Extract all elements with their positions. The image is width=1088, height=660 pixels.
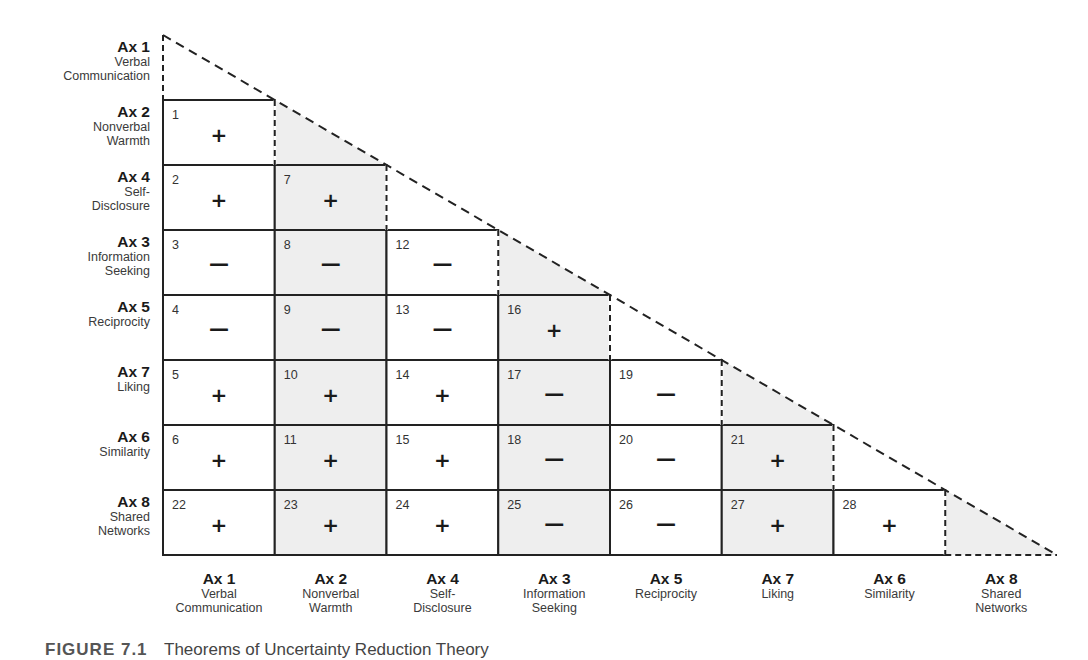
theorem-cell: 12— [387, 230, 499, 295]
theorem-number: 3 [172, 238, 179, 252]
theorem-number: 22 [172, 498, 186, 512]
negative-sign: — [544, 511, 564, 535]
theorem-cell: 17— [498, 360, 610, 425]
axiom-name: Communication [163, 601, 275, 615]
axiom-number: Ax 6 [0, 428, 150, 445]
theorem-cells: 1+2+7+3—8—12—4—9—13—16+5+10+14+17—19—6+1… [163, 100, 945, 555]
theorem-cell: 11+ [275, 425, 387, 490]
row-axis-label: Ax 6Similarity [0, 428, 150, 459]
axiom-number: Ax 2 [0, 103, 150, 120]
positive-sign: + [881, 513, 898, 537]
theorem-number: 19 [619, 368, 633, 382]
positive-sign: + [322, 383, 339, 407]
column-axis-label: Ax 6Similarity [834, 570, 946, 601]
axiom-number: Ax 4 [0, 168, 150, 185]
theorem-cell: 15+ [387, 425, 499, 490]
positive-sign: + [322, 513, 339, 537]
negative-sign: — [656, 381, 676, 405]
theorem-number: 25 [507, 498, 521, 512]
axiom-name: Seeking [498, 601, 610, 615]
axiom-number: Ax 5 [0, 298, 150, 315]
negative-sign: — [544, 446, 564, 470]
positive-sign: + [211, 513, 228, 537]
theorem-cell: 2+ [163, 165, 275, 230]
column-axis-label: Ax 2NonverbalWarmth [275, 570, 387, 615]
figure-caption-text: Theorems of Uncertainty Reduction Theory [164, 640, 489, 659]
positive-sign: + [211, 123, 228, 147]
axiom-number: Ax 1 [163, 570, 275, 587]
row-axis-label: Ax 3InformationSeeking [0, 233, 150, 278]
axiom-name: Disclosure [387, 601, 499, 615]
column-axis-label: Ax 5Reciprocity [610, 570, 722, 601]
column-axis-label: Ax 8SharedNetworks [945, 570, 1057, 615]
diagonal-triangle [610, 295, 722, 360]
axiom-name: Liking [0, 380, 150, 394]
negative-sign: — [544, 381, 564, 405]
positive-sign: + [434, 383, 451, 407]
negative-sign: — [656, 446, 676, 470]
theorem-cell: 13— [387, 295, 499, 360]
axiom-name: Disclosure [0, 199, 150, 213]
axiom-number: Ax 6 [834, 570, 946, 587]
theorem-cell: 1+ [163, 100, 275, 165]
axiom-number: Ax 3 [498, 570, 610, 587]
theorem-cell: 4— [163, 295, 275, 360]
theorem-cell: 7+ [275, 165, 387, 230]
theorem-number: 2 [172, 173, 179, 187]
theorem-number: 26 [619, 498, 633, 512]
positive-sign: + [211, 383, 228, 407]
theorem-number: 28 [843, 498, 857, 512]
theorem-number: 21 [731, 433, 745, 447]
axiom-name: Networks [945, 601, 1057, 615]
axiom-name: Shared [945, 587, 1057, 601]
theorem-number: 10 [284, 368, 298, 382]
axiom-number: Ax 8 [0, 493, 150, 510]
negative-sign: — [656, 511, 676, 535]
axiom-number: Ax 1 [0, 38, 150, 55]
axiom-number: Ax 8 [945, 570, 1057, 587]
row-axis-label: Ax 2NonverbalWarmth [0, 103, 150, 148]
positive-sign: + [322, 188, 339, 212]
negative-sign: — [209, 316, 229, 340]
column-axis-label: Ax 4Self-Disclosure [387, 570, 499, 615]
axiom-name: Warmth [0, 134, 150, 148]
axiom-name: Self- [0, 185, 150, 199]
axiom-name: Networks [0, 524, 150, 538]
axiom-name: Nonverbal [275, 587, 387, 601]
theorem-cell: 27+ [722, 490, 834, 555]
theorem-number: 14 [396, 368, 410, 382]
positive-sign: + [434, 513, 451, 537]
theorem-number: 6 [172, 433, 179, 447]
row-axis-label: Ax 1VerbalCommunication [0, 38, 150, 83]
axiom-name: Nonverbal [0, 120, 150, 134]
positive-sign: + [769, 448, 786, 472]
axiom-number: Ax 3 [0, 233, 150, 250]
positive-sign: + [211, 448, 228, 472]
column-axis-label: Ax 1VerbalCommunication [163, 570, 275, 615]
theorem-number: 16 [507, 303, 521, 317]
column-axis-label: Ax 3InformationSeeking [498, 570, 610, 615]
negative-sign: — [321, 251, 341, 275]
theorem-number: 11 [284, 433, 297, 447]
theorem-number: 8 [284, 238, 291, 252]
theorem-cell: 10+ [275, 360, 387, 425]
axiom-name: Reciprocity [610, 587, 722, 601]
theorem-number: 13 [396, 303, 410, 317]
axiom-name: Reciprocity [0, 315, 150, 329]
figure-label: FIGURE 7.1 [45, 640, 148, 659]
row-axis-label: Ax 4Self-Disclosure [0, 168, 150, 213]
negative-sign: — [433, 316, 453, 340]
axiom-name: Similarity [0, 445, 150, 459]
axiom-number: Ax 7 [0, 363, 150, 380]
axiom-name: Seeking [0, 264, 150, 278]
theorem-cell: 14+ [387, 360, 499, 425]
theorem-cell: 5+ [163, 360, 275, 425]
positive-sign: + [211, 188, 228, 212]
positive-sign: + [434, 448, 451, 472]
theorem-number: 20 [619, 433, 633, 447]
axiom-number: Ax 5 [610, 570, 722, 587]
theorem-cell: 26— [610, 490, 722, 555]
theorem-number: 23 [284, 498, 298, 512]
axiom-name: Information [498, 587, 610, 601]
theorem-number: 1 [172, 108, 179, 122]
